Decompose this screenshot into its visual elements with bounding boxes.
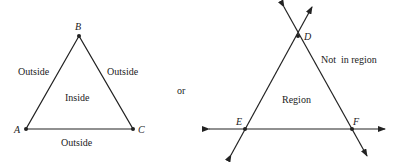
point-a [24, 127, 28, 131]
label-f: F [352, 116, 360, 127]
triangle-abc: B A C Outside Outside Inside Outside [13, 21, 145, 148]
label-inside: Inside [65, 92, 90, 103]
label-d: D [303, 31, 312, 42]
point-d [296, 34, 300, 38]
label-outside-left: Outside [18, 66, 50, 77]
point-c [131, 127, 135, 131]
label-not-in-region: Not in region [321, 54, 377, 65]
label-e: E [235, 116, 242, 127]
diagram: B A C Outside Outside Inside Outside or … [0, 0, 395, 167]
label-b: B [75, 21, 81, 32]
label-region: Region [282, 94, 311, 105]
connector-or: or [177, 85, 186, 96]
label-a: A [13, 124, 21, 135]
point-e [243, 127, 247, 131]
label-outside-right: Outside [107, 66, 139, 77]
label-c: C [138, 124, 145, 135]
lines-def: D E F Not in region Region [209, 7, 385, 156]
label-outside-bottom: Outside [61, 137, 93, 148]
point-b [77, 34, 81, 38]
point-f [350, 127, 354, 131]
